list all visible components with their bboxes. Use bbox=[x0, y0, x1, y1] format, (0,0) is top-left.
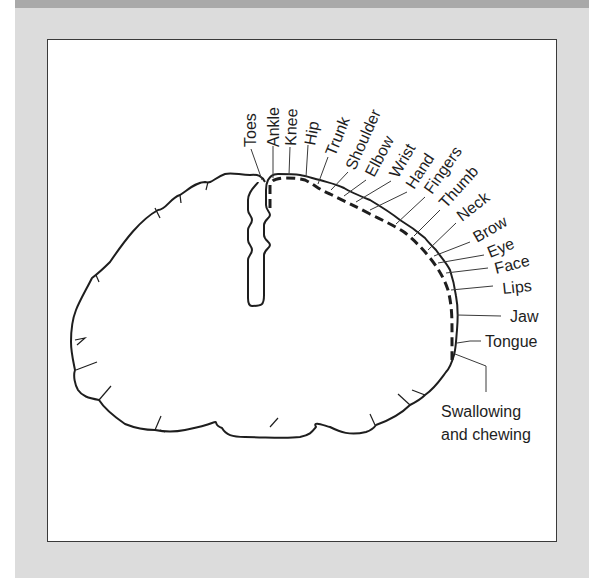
label-knee: Knee bbox=[282, 108, 300, 146]
label-ankle: Ankle bbox=[265, 107, 282, 147]
brain-diagram: Toes Ankle Knee Hip Trunk Shoulder Elbow… bbox=[0, 0, 603, 581]
label-hip: Hip bbox=[301, 120, 322, 147]
labels: Toes Ankle Knee Hip Trunk Shoulder Elbow… bbox=[242, 106, 539, 443]
label-jaw: Jaw bbox=[510, 308, 539, 325]
motor-cortex-dashed-line bbox=[270, 178, 452, 360]
label-lips: Lips bbox=[502, 277, 533, 297]
brain-outline bbox=[71, 173, 458, 438]
label-toes: Toes bbox=[242, 113, 259, 147]
label-tongue: Tongue bbox=[485, 333, 538, 350]
label-swallowing: Swallowing bbox=[441, 403, 521, 420]
sulci bbox=[75, 182, 425, 432]
label-and-chewing: and chewing bbox=[441, 426, 531, 443]
